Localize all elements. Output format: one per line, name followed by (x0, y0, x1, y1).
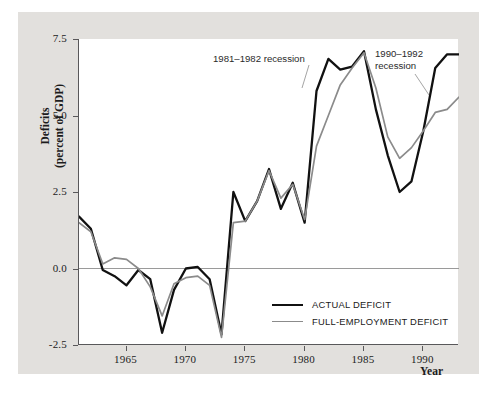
x-axis-tick-label: 1970 (164, 353, 206, 365)
x-axis-tick-mark (244, 346, 245, 351)
y-axis-tick-label: -2.5 (33, 338, 67, 350)
x-axis-tick-label: 1990 (401, 353, 443, 365)
series-line-full-employment-deficit (79, 53, 459, 338)
series-line-actual-deficit (79, 51, 459, 334)
x-axis-tick-label: 1985 (342, 353, 384, 365)
chart-legend: ACTUAL DEFICIT FULL-EMPLOYMENT DEFICIT (272, 296, 448, 330)
legend-item-full-employment-deficit: FULL-EMPLOYMENT DEFICIT (272, 313, 448, 330)
y-axis-tick-mark (73, 345, 78, 346)
data-series-group (79, 51, 459, 337)
legend-swatch-full-employment-deficit (272, 321, 303, 322)
y-axis-tick-label: 5.0 (33, 109, 67, 121)
y-axis-tick-label: 2.5 (33, 185, 67, 197)
x-axis-tick-mark (363, 346, 364, 351)
y-axis-title: Deficits (percent of GDP) (38, 66, 66, 186)
y-axis-title-line-2: (percent of GDP) (52, 66, 66, 186)
annotation-recession-1981-1982: 1981–1982 recession (213, 53, 305, 65)
legend-swatch-actual-deficit (272, 304, 303, 306)
x-axis-tick-mark (304, 346, 305, 351)
y-axis-tick-label: 7.5 (33, 32, 67, 44)
x-axis-tick-label: 1965 (105, 353, 147, 365)
legend-label-full-employment-deficit: FULL-EMPLOYMENT DEFICIT (312, 316, 448, 327)
annotation-recession-1990-1992: 1990–1992 recession (375, 48, 423, 72)
x-axis-tick-label: 1980 (283, 353, 325, 365)
legend-item-actual-deficit: ACTUAL DEFICIT (272, 296, 448, 313)
deficit-chart-figure: Deficits (percent of GDP) Year 7.55.02.5… (0, 0, 497, 399)
y-axis-title-line-1: Deficits (38, 66, 52, 186)
x-axis-tick-mark (185, 346, 186, 351)
x-axis-title: Year (420, 365, 443, 377)
y-axis-tick-label: 0.0 (33, 262, 67, 274)
x-axis-tick-label: 1975 (223, 353, 265, 365)
x-axis-tick-mark (422, 346, 423, 351)
legend-label-actual-deficit: ACTUAL DEFICIT (312, 299, 391, 310)
x-axis-tick-mark (126, 346, 127, 351)
